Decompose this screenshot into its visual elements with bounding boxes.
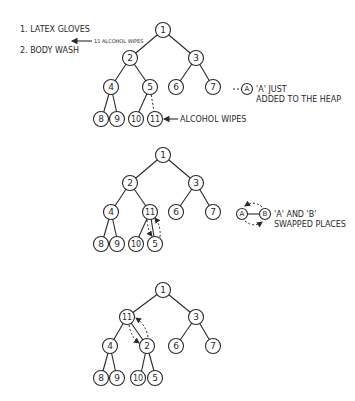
svg-text:2: 2 bbox=[127, 178, 133, 188]
node: 7 bbox=[206, 339, 221, 354]
node: 4 bbox=[103, 339, 118, 354]
legend-line-1: 'A' JUST bbox=[256, 85, 287, 94]
svg-text:3: 3 bbox=[193, 312, 199, 322]
svg-text:A: A bbox=[240, 210, 245, 218]
node: 2 bbox=[140, 339, 155, 354]
svg-text:8: 8 bbox=[98, 373, 104, 383]
svg-text:7: 7 bbox=[210, 207, 216, 217]
svg-text:6: 6 bbox=[173, 207, 179, 217]
svg-text:10: 10 bbox=[133, 374, 143, 383]
svg-text:9: 9 bbox=[114, 373, 120, 383]
node: 1 bbox=[156, 283, 171, 298]
svg-text:B: B bbox=[263, 210, 268, 218]
node: 3 bbox=[189, 176, 204, 191]
heap-tree-3: 1 11 3 4 2 6 7 8 9 10 5 bbox=[94, 283, 221, 386]
legend-node: A bbox=[242, 84, 253, 95]
node: 11 bbox=[143, 205, 158, 220]
node: 5 bbox=[143, 80, 158, 95]
svg-text:9: 9 bbox=[114, 239, 120, 249]
legend-line-1: 'A' AND 'B' bbox=[274, 210, 316, 219]
node: 2 bbox=[123, 51, 138, 66]
svg-text:9: 9 bbox=[114, 114, 120, 124]
node: 11 bbox=[120, 310, 135, 325]
node: 3 bbox=[189, 310, 204, 325]
node: 2 bbox=[123, 176, 138, 191]
legend-node-b: B bbox=[260, 209, 271, 220]
node: 6 bbox=[169, 339, 184, 354]
new-item-label: ALCOHOL WIPES bbox=[180, 115, 246, 124]
svg-text:1: 1 bbox=[160, 150, 166, 160]
node: 4 bbox=[104, 205, 119, 220]
svg-text:5: 5 bbox=[152, 373, 158, 383]
svg-text:4: 4 bbox=[107, 341, 113, 351]
svg-text:3: 3 bbox=[193, 53, 199, 63]
node: 3 bbox=[189, 51, 204, 66]
list-item-1: 1. LATEX GLOVES bbox=[20, 25, 90, 34]
node: 1 bbox=[156, 148, 171, 163]
svg-text:11: 11 bbox=[122, 313, 132, 322]
svg-text:10: 10 bbox=[131, 115, 141, 124]
node: 5 bbox=[148, 371, 163, 386]
svg-text:8: 8 bbox=[98, 239, 104, 249]
heap-diagram: 1. LATEX GLOVES 2. BODY WASH 11 ALCOHOL … bbox=[0, 0, 355, 401]
node: 5 bbox=[148, 237, 163, 252]
node: 10 bbox=[129, 112, 144, 127]
svg-text:4: 4 bbox=[108, 82, 114, 92]
node: 10 bbox=[129, 237, 144, 252]
svg-text:11: 11 bbox=[145, 208, 155, 217]
legend-node-a: A bbox=[237, 209, 248, 220]
svg-text:7: 7 bbox=[210, 82, 216, 92]
node: 8 bbox=[94, 371, 109, 386]
svg-text:2: 2 bbox=[144, 341, 150, 351]
svg-text:6: 6 bbox=[173, 341, 179, 351]
svg-text:A: A bbox=[245, 85, 250, 93]
svg-text:1: 1 bbox=[160, 285, 166, 295]
svg-text:1: 1 bbox=[160, 25, 166, 35]
svg-text:3: 3 bbox=[193, 178, 199, 188]
node: 1 bbox=[156, 23, 171, 38]
node: 9 bbox=[110, 371, 125, 386]
svg-text:6: 6 bbox=[173, 82, 179, 92]
svg-text:5: 5 bbox=[147, 82, 153, 92]
svg-text:2: 2 bbox=[127, 53, 133, 63]
node: 9 bbox=[110, 237, 125, 252]
svg-text:7: 7 bbox=[210, 341, 216, 351]
node: 7 bbox=[206, 205, 221, 220]
svg-text:11: 11 bbox=[150, 115, 160, 124]
heap-tree-2: 1 2 3 4 11 6 7 8 9 10 5 A B 'A' AND 'B' … bbox=[94, 148, 346, 252]
svg-text:4: 4 bbox=[108, 207, 114, 217]
node: 6 bbox=[169, 80, 184, 95]
node: 8 bbox=[94, 112, 109, 127]
node: 8 bbox=[94, 237, 109, 252]
node: 9 bbox=[110, 112, 125, 127]
svg-text:5: 5 bbox=[152, 239, 158, 249]
legend-line-2: ADDED TO THE HEAP bbox=[256, 95, 341, 104]
node-new: 11 bbox=[148, 112, 163, 127]
node: 6 bbox=[169, 205, 184, 220]
node: 4 bbox=[104, 80, 119, 95]
list-item-2: 2. BODY WASH bbox=[20, 46, 79, 55]
legend-line-2: SWAPPED PLACES bbox=[274, 220, 346, 229]
node: 10 bbox=[131, 371, 146, 386]
svg-text:10: 10 bbox=[131, 240, 141, 249]
node: 7 bbox=[206, 80, 221, 95]
svg-text:8: 8 bbox=[98, 114, 104, 124]
insert-note: 11 ALCOHOL WIPES bbox=[94, 38, 143, 44]
